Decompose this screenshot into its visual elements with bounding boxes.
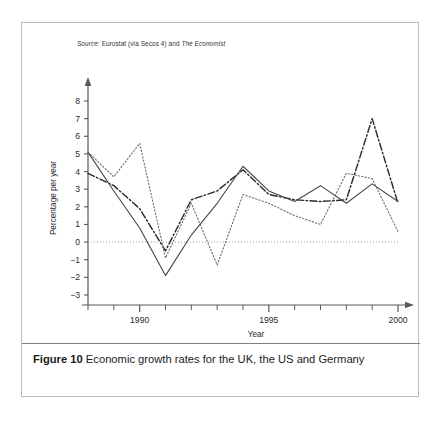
- axes-group: 876543210−1−2−3199019952000: [70, 77, 414, 325]
- x-tick-label: 1990: [130, 315, 149, 325]
- x-tick-label: 2000: [388, 315, 407, 325]
- y-tick-label: −3: [70, 290, 80, 300]
- y-tick-label: 2: [75, 202, 80, 212]
- x-tick-label: 1995: [259, 315, 278, 325]
- series-group: [88, 119, 398, 276]
- y-tick-label: 3: [75, 184, 80, 194]
- axis-titles-group: Percentage per yearYear: [49, 161, 265, 339]
- figure-caption-bar: Figure 10 Economic growth rates for the …: [22, 343, 420, 397]
- series-line-usa: [88, 119, 398, 251]
- growth-rate-line-chart: 876543210−1−2−3199019952000 USAUKGermany…: [22, 23, 420, 343]
- y-tick-label: 4: [75, 167, 80, 177]
- chart-plot-region: Source: Eurostat (via Secos 4) and The E…: [22, 23, 420, 343]
- y-tick-label: 0: [75, 237, 80, 247]
- y-tick-label: 7: [75, 114, 80, 124]
- x-axis-title: Year: [248, 330, 265, 339]
- y-axis-title: Percentage per year: [49, 161, 58, 235]
- y-tick-label: 1: [75, 219, 80, 229]
- y-tick-label: −1: [70, 255, 80, 265]
- y-tick-label: 5: [75, 149, 80, 159]
- y-tick-label: −2: [70, 272, 80, 282]
- figure-number: Figure 10: [33, 353, 83, 365]
- figure-caption: Figure 10 Economic growth rates for the …: [33, 352, 403, 367]
- y-tick-label: 6: [75, 131, 80, 141]
- figure-caption-text: Economic growth rates for the UK, the US…: [86, 353, 365, 365]
- y-tick-label: 8: [75, 96, 80, 106]
- figure-card: Source: Eurostat (via Secos 4) and The E…: [21, 22, 419, 397]
